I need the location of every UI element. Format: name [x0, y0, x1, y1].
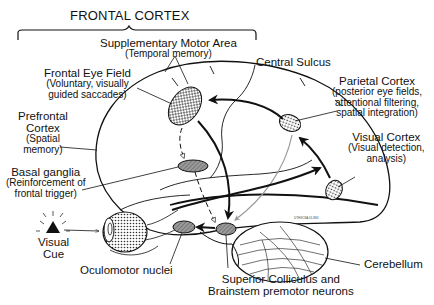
- superior-colliculus-label: Superior Colliculus and Brainstem premot…: [208, 273, 354, 297]
- bg-function-2: frontal trigger): [6, 189, 85, 200]
- cb-name: Cerebellum: [364, 258, 423, 270]
- basal-ganglia-label: Basal ganglia (Reinforcement of frontal …: [6, 166, 85, 199]
- cs-name: Central Sulcus: [256, 56, 331, 68]
- sc-name-2: Brainstem premotor neurons: [208, 285, 354, 297]
- sc-name-1: Superior Colliculus and: [208, 273, 354, 285]
- visual-cue-label: Visual Cue: [38, 236, 69, 260]
- superior-colliculus-region: [216, 223, 236, 235]
- pc-function-3: spatial integration): [332, 108, 422, 119]
- fef-function-2: guided saccades): [44, 90, 131, 101]
- frontal-cortex-title: FRONTAL CORTEX: [70, 9, 190, 23]
- parietal-cortex-label: Parietal Cortex (posterior eye fields, a…: [332, 75, 422, 119]
- fine-print-text: UTHSCSA 01-884: [294, 216, 318, 220]
- fef-function-1: (Voluntary, visually: [44, 79, 131, 90]
- oculomotor-nuclei-label: Oculomotor nuclei: [80, 264, 173, 276]
- basal-ganglia-region: [178, 160, 208, 172]
- pc-function-1: (posterior eye fields,: [332, 87, 422, 98]
- bg-function-1: (Reinforcement of: [6, 178, 85, 189]
- title-text: FRONTAL CORTEX: [70, 8, 190, 23]
- prefrontal-cortex-label: Prefrontal Cortex (Spatial memory): [18, 110, 68, 155]
- pfc-name-1: Prefrontal: [18, 110, 68, 122]
- on-name: Oculomotor nuclei: [80, 264, 173, 276]
- frontal-eye-field-label: Frontal Eye Field (Voluntary, visually g…: [44, 67, 131, 100]
- visual-cortex-label: Visual Cortex (Visual detection, analysi…: [348, 131, 425, 164]
- central-sulcus-label: Central Sulcus: [256, 56, 331, 68]
- cue-name-2: Cue: [38, 248, 69, 260]
- vc-function-2: analysis): [348, 154, 425, 165]
- cue-name-1: Visual: [38, 236, 69, 248]
- fine-print: UTHSCSA 01-884: [294, 217, 318, 220]
- pfc-function-2: memory): [18, 145, 68, 156]
- sma-function: (Temporal memory): [100, 49, 237, 60]
- vc-function-1: (Visual detection,: [348, 143, 425, 154]
- oculomotor-nuclei-region: [173, 221, 195, 233]
- cerebellum-label: Cerebellum: [364, 258, 423, 270]
- supplementary-motor-area-label: Supplementary Motor Area (Temporal memor…: [100, 37, 237, 60]
